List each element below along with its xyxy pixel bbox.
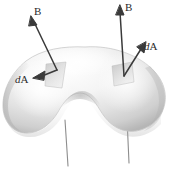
field-line-left (65, 120, 68, 166)
vector-label-da-left-main: A (21, 73, 29, 85)
vector-label-b-left: B (34, 6, 41, 17)
vector-label-da-left: dA (15, 74, 28, 85)
caption-stub (6, 166, 32, 173)
magnetic-flux-diagram (0, 0, 170, 175)
vector-b-left-arrowhead (29, 16, 37, 26)
vector-label-da-right: dA (144, 41, 157, 52)
vector-label-da-right-main: A (150, 40, 158, 52)
closed-surface-group (3, 47, 165, 137)
vector-label-b-right: B (125, 2, 132, 13)
vector-b-right-arrowhead (116, 5, 124, 15)
figure-container: B dA B dA (0, 0, 170, 175)
